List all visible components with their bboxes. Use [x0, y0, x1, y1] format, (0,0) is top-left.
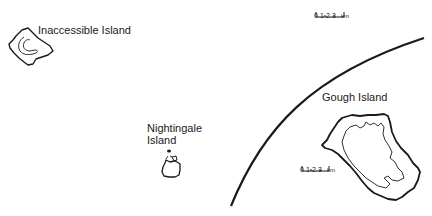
inaccessible-island-label: Inaccessible Island: [38, 24, 131, 36]
scale-bar-gough: 0123 km: [300, 158, 335, 176]
scale-unit: km: [327, 167, 335, 173]
gough-island-label: Gough Island: [322, 91, 387, 103]
gough-island-shape: [322, 114, 420, 200]
scale-ticks: 0123: [314, 12, 340, 19]
nightingale-island-label-line2: Island: [147, 134, 176, 146]
scale-unit: km: [341, 13, 349, 19]
scale-tick-3: 3: [332, 12, 338, 19]
nightingale-island-shape: [162, 150, 180, 178]
scale-bar-top: 0123 km: [314, 4, 349, 22]
nightingale-island-label-line1: Nightingale: [147, 122, 202, 134]
scale-tick-3: 3: [318, 166, 324, 173]
scale-ticks: 0123: [300, 166, 326, 173]
